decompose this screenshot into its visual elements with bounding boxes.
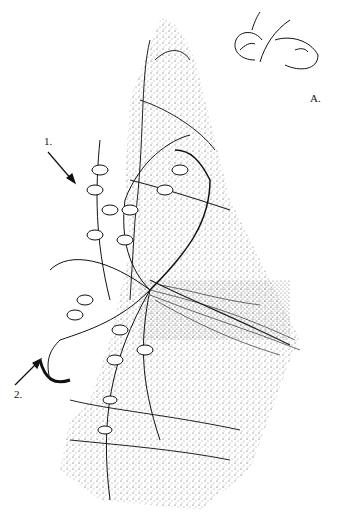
inset-detail-pinna bbox=[235, 12, 318, 69]
pointer-arrows bbox=[15, 152, 75, 385]
label-two: 2. bbox=[14, 388, 22, 400]
label-inset-a: A. bbox=[310, 92, 321, 104]
rock-face bbox=[60, 19, 300, 510]
fern-illustration bbox=[0, 0, 347, 529]
label-one: 1. bbox=[44, 135, 52, 147]
